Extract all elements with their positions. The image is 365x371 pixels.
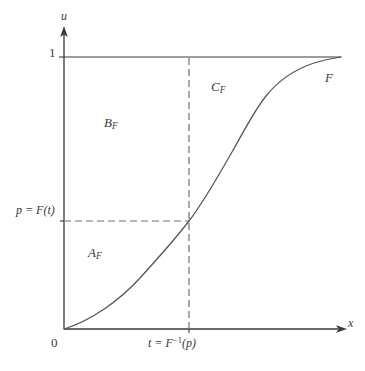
region-label-a: AF [88,246,102,262]
cdf-diagram: u 1 x 0 p = F(t) t = F−1(p) AF BF CF F [0,0,365,371]
x-tick-label-t-suffix: (p) [182,336,196,350]
y-tick-label-p: p = F(t) [16,204,55,216]
region-c-base: C [211,79,220,94]
region-a-base: A [88,245,96,260]
region-label-b: BF [104,116,118,132]
curve-label-f: F [325,71,333,84]
region-a-sub: F [96,251,102,261]
x-tick-label-t-prefix: t = F [148,336,173,350]
region-b-sub: F [112,121,118,131]
x-tick-label-t: t = F−1(p) [148,336,196,349]
cdf-curve [64,57,341,329]
x-axis-label: x [348,317,353,329]
y-tick-label-one: 1 [49,46,56,59]
origin-label: 0 [51,336,58,349]
region-c-sub: F [220,85,226,95]
x-tick-label-t-exponent: −1 [173,335,182,345]
region-label-c: CF [211,80,225,96]
region-b-base: B [104,115,112,130]
y-axis-label: u [61,10,67,22]
